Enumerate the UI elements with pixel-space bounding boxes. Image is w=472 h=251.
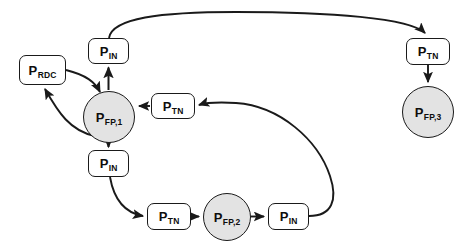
node-p-in-top[interactable]: PIN bbox=[88, 38, 129, 64]
node-p-tn-bot-label: PTN bbox=[159, 210, 180, 223]
edge-in-mid-to-tn-bot bbox=[110, 177, 143, 216]
node-p-fp-2-label: PFP,2 bbox=[214, 211, 240, 224]
node-p-in-bot-label: PIN bbox=[280, 210, 298, 223]
node-p-tn-right-label: PTN bbox=[418, 45, 439, 58]
node-p-fp-3-label: PFP,3 bbox=[415, 106, 441, 119]
node-p-in-mid[interactable]: PIN bbox=[88, 150, 129, 177]
node-p-tn-mid[interactable]: PTN bbox=[151, 93, 195, 119]
node-p-in-bot[interactable]: PIN bbox=[268, 203, 309, 230]
edge-rdc-to-fp1 bbox=[66, 70, 100, 92]
node-p-fp-1-label: PFP,1 bbox=[96, 111, 122, 124]
node-p-rdc-label: PRDC bbox=[29, 64, 57, 77]
edge-in-top-to-tn-right bbox=[109, 12, 425, 38]
node-p-rdc[interactable]: PRDC bbox=[19, 55, 66, 85]
node-p-in-top-label: PIN bbox=[100, 45, 118, 58]
node-p-fp-2[interactable]: PFP,2 bbox=[203, 193, 251, 241]
node-p-tn-mid-label: PTN bbox=[163, 100, 184, 113]
node-p-tn-right[interactable]: PTN bbox=[406, 38, 450, 65]
node-p-fp-3[interactable]: PFP,3 bbox=[402, 86, 454, 138]
node-p-tn-bot[interactable]: PTN bbox=[147, 203, 191, 230]
node-p-fp-1[interactable]: PFP,1 bbox=[83, 91, 135, 143]
node-p-in-mid-label: PIN bbox=[100, 157, 118, 170]
diagram-canvas: PRDC PIN PFP,1 PTN PIN PTN PFP,2 PIN PTN… bbox=[0, 0, 472, 251]
